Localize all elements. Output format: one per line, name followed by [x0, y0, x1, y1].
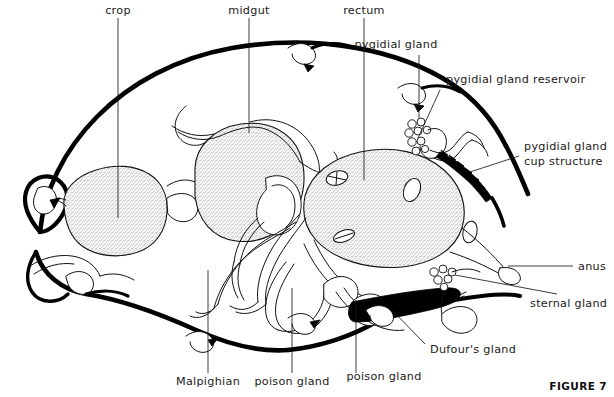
label-sternal-gland: sternal gland: [530, 297, 607, 310]
label-pygidial-gland-cup-structure-line1: pygidial gland: [524, 140, 607, 153]
label-dufours-gland: Dufour's gland: [430, 343, 516, 356]
pygidial-gland: [405, 118, 431, 155]
label-midgut: midgut: [228, 4, 270, 17]
label-pygidial-gland-reservoir: pygidial gland reservoir: [446, 73, 585, 86]
anatomy-illustration: crop midgut rectum pygidial gland pygidi…: [0, 0, 614, 397]
label-rectum: rectum: [343, 4, 385, 17]
rectum-organ: [304, 149, 521, 284]
proventriculus: [167, 180, 198, 222]
pygidial-gland-reservoir: [420, 128, 488, 160]
dorsal-hook-posterior: [398, 84, 460, 113]
label-malpighian: Malpighian: [176, 375, 240, 388]
label-pygidial-gland: pygidial gland: [354, 38, 437, 51]
label-poison-gland-left: poison gland: [254, 375, 329, 388]
figure-caption: FIGURE 7: [549, 380, 607, 392]
figure-container: crop midgut rectum pygidial gland pygidi…: [0, 0, 614, 397]
label-poison-gland-right: poison gland: [346, 370, 421, 383]
label-pygidial-gland-cup-structure-line2: cup structure: [524, 155, 603, 168]
label-crop: crop: [105, 4, 131, 17]
label-anus: anus: [578, 260, 606, 273]
